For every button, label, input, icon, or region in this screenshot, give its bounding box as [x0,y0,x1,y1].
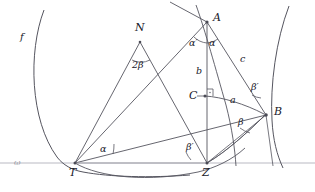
axis-label-omega: ω [14,159,21,167]
side-label-c: c [240,54,245,64]
segment-N-T [75,42,140,163]
right-circle-arc [272,6,289,168]
point-label-B: B [274,106,282,117]
side-label-a: a [230,95,236,105]
angle-label-beta-prime-B: β′ [251,82,259,92]
figure-canvas [0,0,315,192]
angle-label-beta-prime-Z: β′ [186,142,194,152]
right-angle-dot-C [209,92,210,93]
point-label-C: C [189,90,197,101]
point-dot-N [139,41,142,44]
angle-label-alpha-prime-A: α′ [189,38,198,48]
angle-label-alpha-T: α [100,144,106,154]
angle-arc-alpha-T [113,144,114,154]
geometry-figure: A B C N T Z b c a α α′ 2β α β′ β β′ f ω [0,0,315,192]
point-label-Z: Z [202,167,210,178]
point-label-A: A [213,12,221,23]
curve-label-f: f [20,32,24,42]
point-label-N: N [135,22,145,33]
point-dot-B [264,113,268,117]
angle-label-beta-B: β [238,117,244,127]
angle-arc-beta-prime-Z [186,152,191,160]
side-label-b: b [196,66,202,76]
point-dot-A [205,20,208,23]
point-dot-Z [206,162,209,165]
point-dot-C [204,95,207,98]
point-dot-T [74,162,77,165]
angle-label-two-beta-N: 2β [132,60,144,70]
ray-through-A-upper-left [170,2,207,22]
point-label-T: T [69,167,76,178]
arc-through-A [196,5,236,166]
angle-arc-beta-prime-B [252,95,261,98]
angle-label-alpha-A: α [209,38,215,48]
